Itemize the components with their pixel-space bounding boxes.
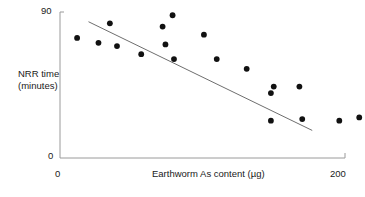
data-point [107, 20, 113, 26]
x-tick-label-0: 0 [55, 168, 60, 179]
y-axis-title-line-2: (minutes) [18, 80, 59, 92]
data-point [214, 56, 220, 62]
data-point [268, 118, 274, 124]
data-point [297, 84, 303, 90]
data-point [244, 66, 250, 72]
x-axis-title: Earthworm As content (µg) [152, 168, 265, 179]
data-point [201, 32, 207, 38]
data-point [299, 116, 305, 122]
data-point [271, 84, 277, 90]
data-point [170, 12, 176, 18]
scatter-chart: NRR time (minutes) 90 0 0 200 Earthworm … [0, 0, 365, 197]
trendline-segment [89, 22, 313, 131]
y-axis-title: NRR time (minutes) [18, 68, 59, 91]
y-tick-label-90: 90 [41, 5, 52, 16]
data-point [163, 42, 169, 48]
data-point [74, 35, 80, 41]
x-tick-label-200: 200 [330, 168, 346, 179]
data-point [268, 90, 274, 96]
data-points-group [74, 12, 362, 123]
data-point [171, 56, 177, 62]
data-point [336, 118, 342, 124]
data-point [356, 115, 362, 121]
y-tick-label-0: 0 [48, 150, 53, 161]
data-point [114, 43, 120, 49]
trendline [89, 22, 313, 131]
y-axis-title-line-1: NRR time [18, 68, 59, 80]
data-point [96, 40, 102, 46]
data-point [160, 24, 166, 30]
data-point [138, 51, 144, 57]
